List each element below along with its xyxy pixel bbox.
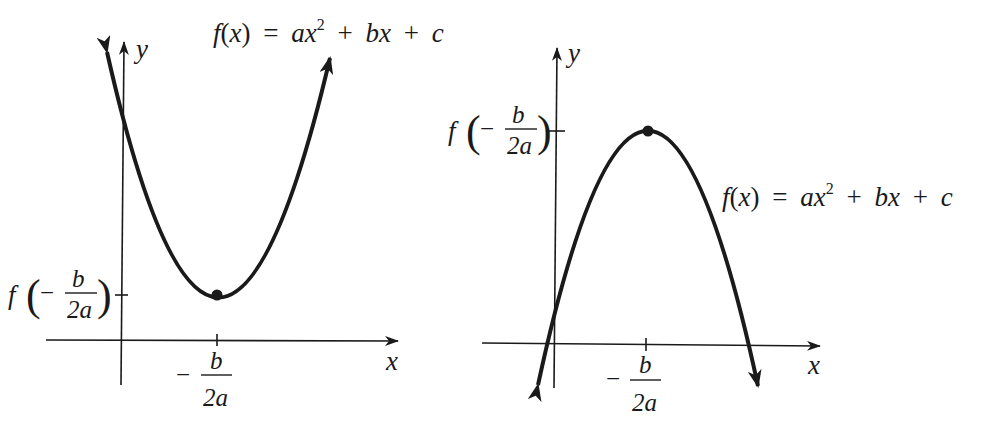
right-graph: y x f(x) = ax2 + bx + c − b 2a f ( − b 2… [448,38,953,416]
svg-text:b: b [639,351,652,378]
svg-text:−: − [480,115,494,142]
svg-text:b: b [72,265,85,292]
right-parabola-curve [538,131,758,386]
svg-text:2a: 2a [507,132,532,159]
svg-text:b: b [512,101,525,128]
svg-text:2a: 2a [203,384,228,411]
svg-text:b: b [210,347,223,374]
right-x-axis-label: x [807,350,820,380]
left-y-axis [121,42,124,385]
left-graph: y x f(x) = ax2 + bx + c − b 2a f ( − b 2… [8,6,444,411]
svg-text:−: − [176,361,190,388]
left-x-axis-label: x [385,346,398,376]
svg-text:2a: 2a [67,296,92,323]
svg-text:2a: 2a [632,389,657,416]
svg-text:−: − [40,279,54,306]
svg-text:f: f [448,116,459,146]
svg-text:(: ( [466,107,481,156]
right-function-label: f(x) = ax2 + bx + c [722,170,953,212]
right-x-tick-label: − b 2a [606,351,661,416]
right-y-axis [554,48,557,388]
quadratic-graphs-figure: y x f(x) = ax2 + bx + c − b 2a f ( − b 2… [0,0,988,442]
svg-text:): ) [97,271,112,320]
left-y-axis-label: y [133,34,148,64]
right-y-axis-label: y [565,38,580,68]
svg-text:f: f [8,280,19,310]
svg-text:(: ( [26,271,41,320]
left-vertex-point [212,290,223,301]
right-vertex-point [643,126,654,137]
left-function-label: f(x) = ax2 + bx + c [213,6,444,48]
left-parabola-curve [107,52,330,298]
right-x-axis [482,343,820,346]
svg-text:−: − [606,365,620,392]
left-x-tick-label: − b 2a [176,347,232,411]
right-y-tick-label: f ( − b 2a ) [448,101,552,159]
left-y-tick-label: f ( − b 2a ) [8,265,112,323]
svg-text:): ) [537,107,552,156]
left-x-axis [46,340,398,341]
